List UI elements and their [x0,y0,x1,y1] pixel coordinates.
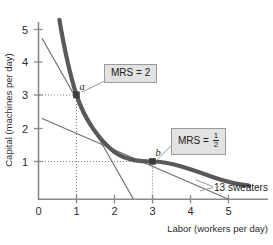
chart-canvas: 5 4 3 2 1 0 1 2 3 4 5 Labor (workers per… [0,0,273,245]
y-tick-label-4: 4 [22,56,28,68]
x-tick-labels: 0 1 2 3 4 5 [35,205,231,217]
callout-mrs-a-value: 2 [145,68,151,78]
guide-lines-group [39,95,153,199]
y-axis-title: Capital (machines per day) [3,53,14,167]
point-marker-b [149,158,155,164]
x-axis-title: Labor (workers per day) [167,223,268,234]
x-tick-label-2: 2 [111,205,117,217]
point-label-a: a [80,81,85,92]
leader-line-mrs-a [82,81,105,92]
x-tick-label-5: 5 [225,205,231,217]
y-tick-labels: 5 4 3 2 1 [22,24,28,168]
axes-group [39,22,269,200]
y-tick-label-1: 1 [22,156,28,168]
leader-line-curve-upper [196,180,213,187]
x-tick-label-3: 3 [149,205,155,217]
callout-mrs-b-fraction: 1 2 [213,132,219,150]
indifference-curve-figure: 5 4 3 2 1 0 1 2 3 4 5 Labor (workers per… [0,0,273,245]
curve-label-leaders [196,180,213,191]
curve-label-13-sweaters: 13 sweaters [214,182,268,193]
callout-mrs-at-a: MRS = 2 [104,64,157,83]
x-tick-label-1: 1 [73,205,79,217]
x-tick-label-0: 0 [35,205,41,217]
y-tick-label-5: 5 [22,24,28,36]
fraction-numerator: 1 [213,132,219,140]
callout-mrs-at-b: MRS = 1 2 [171,128,226,155]
callout-mrs-a-prefix: MRS = [111,68,142,78]
x-tick-label-4: 4 [187,205,193,217]
fraction-denominator: 2 [213,140,219,149]
callout-mrs-b-prefix: MRS = [178,136,209,146]
y-tick-label-3: 3 [22,89,28,101]
y-tick-label-2: 2 [22,123,28,135]
point-marker-a [73,92,79,98]
